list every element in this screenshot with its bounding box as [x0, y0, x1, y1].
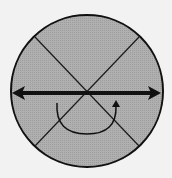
- diagram-canvas: [0, 0, 172, 178]
- diagram: Circle with crossed diagonals, horizonta…: [0, 0, 172, 178]
